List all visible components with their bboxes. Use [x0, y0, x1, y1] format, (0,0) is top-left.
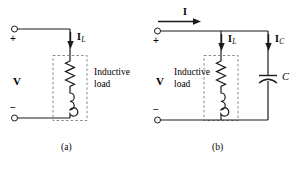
current-subscript-l-b: L	[232, 37, 236, 46]
polarity-minus-b: −	[153, 105, 159, 115]
polarity-minus-a: −	[10, 103, 16, 113]
load-label-b-line2: load	[174, 79, 190, 89]
current-arrow-ic-b	[265, 34, 271, 51]
current-label-il-b: IL	[228, 34, 236, 44]
load-label-a-line2: load	[94, 79, 110, 89]
resistor-symbol-b	[217, 58, 226, 90]
inductor-symbol-a	[70, 90, 78, 118]
load-label-a-line1: Inductive	[94, 67, 130, 77]
current-label-il-a: IL	[77, 32, 85, 42]
terminal-top-a	[12, 26, 18, 32]
voltage-label-a: V	[13, 76, 21, 87]
load-label-b-line1: Inductive	[174, 67, 210, 77]
capacitor-label-b: C	[282, 72, 289, 83]
current-symbol-i-b: I	[183, 6, 187, 17]
circuit-b-graphics	[155, 18, 278, 123]
load-label-b: Inductiveload	[174, 67, 210, 90]
terminal-bottom-b	[155, 117, 161, 123]
circuit-figure: + − V IL Inductiveload (a) I + − V Induc…	[0, 0, 300, 169]
terminal-bottom-a	[12, 115, 18, 121]
inductor-symbol-b	[221, 90, 229, 120]
polarity-plus-a: +	[10, 34, 16, 44]
resistor-symbol-a	[66, 58, 75, 90]
current-arrow-il-a	[67, 32, 73, 49]
circuit-a-graphics	[12, 26, 88, 121]
polarity-plus-b: +	[153, 36, 159, 46]
circuit-drawing	[0, 0, 300, 169]
voltage-label-b: V	[156, 76, 164, 87]
current-subscript-c-b: C	[279, 37, 284, 46]
current-subscript-l: L	[81, 35, 85, 44]
current-label-i-b: I	[183, 7, 187, 17]
terminal-top-b	[155, 28, 161, 34]
load-label-a: Inductiveload	[94, 67, 130, 90]
current-arrow-il-b	[218, 34, 224, 51]
current-label-ic-b: IC	[275, 34, 284, 44]
current-arrow-i-b	[158, 18, 201, 24]
caption-b: (b)	[212, 143, 223, 153]
caption-a: (a)	[61, 143, 72, 153]
